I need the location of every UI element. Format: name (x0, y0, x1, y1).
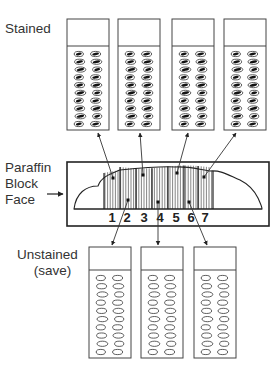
section-number-2: 2 (123, 210, 130, 225)
diagram-canvas: 1234567 (0, 0, 280, 368)
unstained-slide-1 (89, 247, 131, 358)
unstained-cell (148, 349, 157, 354)
unstained-slides-group (89, 247, 236, 358)
unstained-cell (218, 349, 228, 354)
unstained-cell (115, 317, 124, 322)
unstained-cell (165, 325, 175, 330)
unstained-cell (148, 300, 157, 305)
unstained-cell (96, 275, 105, 280)
unstained-slide-3 (194, 247, 236, 358)
unstained-cell (113, 349, 123, 354)
unstained-cell (167, 292, 176, 297)
stained-slide-4 (224, 19, 266, 130)
unstained-cell (202, 308, 212, 313)
unstained-cell (218, 325, 228, 330)
unstained-cell (218, 284, 229, 289)
unstained-cell (201, 325, 210, 330)
unstained-cell (218, 300, 228, 305)
unstained-cell (202, 292, 213, 297)
unstained-cell (165, 349, 175, 354)
unstained-cell (97, 292, 108, 297)
unstained-cell (220, 317, 229, 322)
unstained-cell (165, 275, 175, 280)
unstained-cell (115, 341, 124, 346)
unstained-cell (97, 341, 108, 346)
unstained-cell (149, 317, 160, 322)
unstained-cell (149, 292, 160, 297)
unstained-cell (113, 284, 124, 289)
unstained-cell (218, 275, 228, 280)
unstained-cell (97, 317, 108, 322)
unstained-cell (220, 341, 229, 346)
stained-slides-group (67, 19, 266, 130)
unstained-cell (149, 308, 159, 313)
unstained-cell (149, 284, 159, 289)
paraffin-block (67, 162, 269, 226)
unstained-cell (167, 341, 176, 346)
unstained-cell (149, 333, 159, 338)
unstained-cell (113, 333, 124, 338)
section-number-5: 5 (172, 210, 179, 225)
unstained-cell (96, 349, 105, 354)
unstained-cell (165, 284, 176, 289)
unstained-cell (218, 333, 229, 338)
unstained-cell (202, 284, 212, 289)
unstained-cell (167, 317, 176, 322)
unstained-cell (202, 333, 212, 338)
section-number-3: 3 (140, 210, 147, 225)
section-number-1: 1 (108, 210, 115, 225)
unstained-cell (201, 349, 210, 354)
unstained-cell (201, 300, 210, 305)
unstained-cell (148, 325, 157, 330)
unstained-cell (97, 284, 107, 289)
unstained-cell (201, 275, 210, 280)
unstained-cell (115, 292, 124, 297)
stained-slide-2 (118, 19, 160, 130)
unstained-cell (149, 341, 160, 346)
unstained-cell (218, 308, 229, 313)
unstained-cell (113, 275, 123, 280)
unstained-cell (202, 317, 213, 322)
unstained-cell (97, 333, 107, 338)
section-number-7: 7 (201, 210, 208, 225)
unstained-cell (113, 308, 124, 313)
unstained-cell (113, 325, 123, 330)
stained-slide-1 (67, 19, 109, 130)
stained-slide-3 (172, 19, 214, 130)
unstained-slide-2 (141, 247, 183, 358)
unstained-cell (96, 325, 105, 330)
unstained-cell (202, 341, 213, 346)
unstained-cell (97, 308, 107, 313)
unstained-cell (220, 292, 229, 297)
unstained-cell (165, 300, 175, 305)
unstained-cell (113, 300, 123, 305)
unstained-cell (96, 300, 105, 305)
unstained-cell (165, 308, 176, 313)
unstained-cell (148, 275, 157, 280)
unstained-cell (165, 333, 176, 338)
